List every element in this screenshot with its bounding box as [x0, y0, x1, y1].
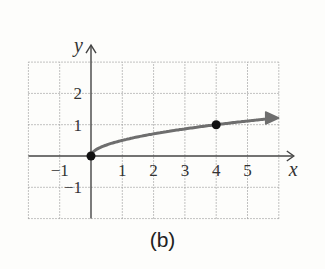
curve-sqrt [91, 118, 274, 156]
y-tick-label: 2 [74, 84, 83, 103]
y-tick-label: 1 [74, 116, 83, 135]
x-axis-label: x [288, 158, 298, 180]
curve-arrow-icon [266, 112, 279, 124]
x-tick-label: 5 [243, 161, 252, 180]
x-tick-label: 4 [212, 161, 221, 180]
x-tick-label: −1 [51, 161, 69, 180]
y-axis-label: y [72, 34, 83, 57]
x-tick-label: 2 [149, 161, 158, 180]
x-tick-label: 1 [118, 161, 127, 180]
figure-caption: (b) [0, 228, 325, 252]
data-point [212, 120, 221, 129]
data-point [87, 152, 96, 161]
y-tick-label: −1 [64, 178, 82, 197]
x-tick-label: 3 [181, 161, 190, 180]
